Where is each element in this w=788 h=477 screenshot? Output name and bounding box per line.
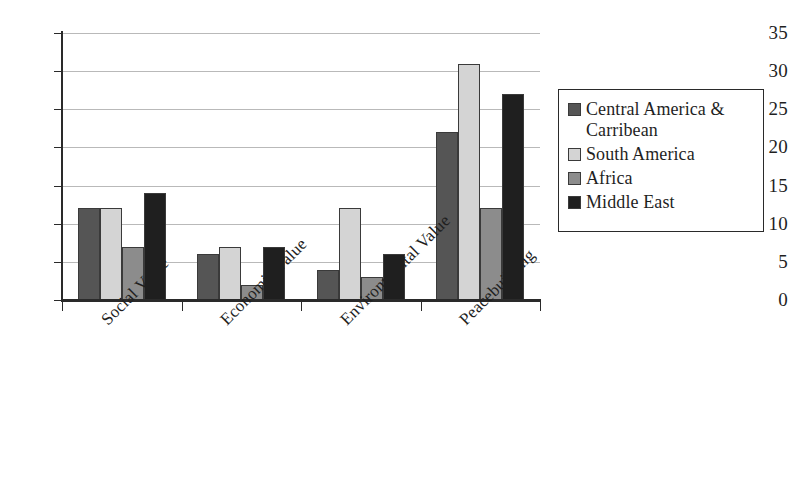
legend-item: South America <box>568 144 757 165</box>
x-axis-tick <box>62 301 63 311</box>
legend-label: Middle East <box>586 192 675 213</box>
bar <box>78 208 100 300</box>
legend-label: South America <box>586 144 695 165</box>
bars-layer <box>62 33 540 300</box>
legend-item: Africa <box>568 168 757 189</box>
bar-chart: 05101520253035 Social ValueEconomic Valu… <box>0 0 788 477</box>
y-axis-tick-label: 30 <box>742 61 788 80</box>
legend-swatch-icon <box>568 196 581 209</box>
legend-swatch-icon <box>568 103 581 116</box>
x-axis-tick <box>421 301 422 311</box>
x-axis-tick <box>301 301 302 311</box>
legend-item: Central America & Carribean <box>568 99 757 141</box>
legend-label: Central America & Carribean <box>586 99 757 141</box>
bar <box>458 64 480 300</box>
bar <box>339 208 361 300</box>
bar <box>317 270 339 301</box>
legend-swatch-icon <box>568 172 581 185</box>
y-axis-tick-label: 5 <box>742 252 788 271</box>
legend-item: Middle East <box>568 192 757 213</box>
legend: Central America & CarribeanSouth America… <box>558 89 764 232</box>
legend-label: Africa <box>586 168 633 189</box>
bar <box>197 254 219 300</box>
x-axis-tick <box>540 301 541 311</box>
y-axis-tick-label: 0 <box>742 290 788 309</box>
x-axis-tick <box>182 301 183 311</box>
bar <box>100 208 122 300</box>
y-axis-tick-label: 35 <box>742 23 788 42</box>
legend-swatch-icon <box>568 148 581 161</box>
